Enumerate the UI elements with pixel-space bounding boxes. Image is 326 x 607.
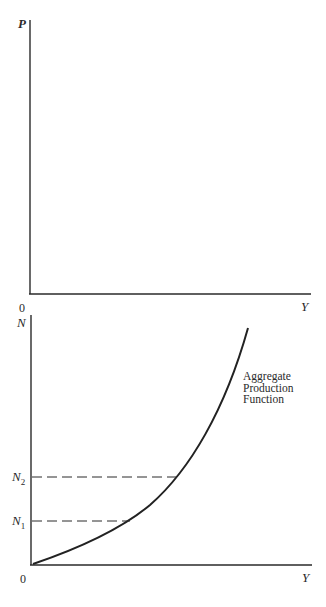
curve-label-line-3: Function	[243, 393, 284, 405]
upper-x-axis-label: Y	[301, 299, 310, 314]
upper-origin-label: 0	[19, 301, 25, 315]
lower-x-axis-label: Y	[302, 570, 311, 585]
upper-y-axis-label: P	[18, 16, 27, 31]
n1-label: N1	[11, 513, 25, 531]
lower-origin-label: 0	[20, 572, 26, 586]
n2-label: N2	[11, 469, 25, 487]
diagram-canvas: P 0 Y N 0 Y N2 N1 Aggregate Production F…	[0, 0, 326, 607]
upper-panel: P 0 Y	[18, 16, 311, 315]
lower-y-axis-label: N	[16, 315, 27, 330]
lower-panel: N 0 Y N2 N1 Aggregate Production Functio…	[11, 315, 312, 586]
aggregate-production-function-curve	[33, 328, 248, 564]
